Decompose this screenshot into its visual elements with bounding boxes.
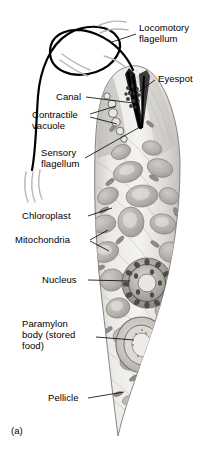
nucleus [122,258,172,309]
label-nucleus: Nucleus [42,275,77,286]
euglena-diagram [0,0,210,457]
label-canal: Canal [56,92,81,103]
label-mitochondria: Mitochondria [15,235,70,246]
label-paramylon-body: Paramylon body (stored food) [22,319,75,351]
label-eyespot: Eyespot [158,74,193,85]
label-locomotory-flagellum: Locomotory flagellum [139,23,189,45]
label-sensory-flagellum: Sensory flagellum [41,148,79,170]
cell-body [90,66,184,436]
panel-label: (a) [11,425,23,436]
label-contractile-vacuole: Contractile vacuole [32,110,78,132]
label-pellicle: Pellicle [48,393,79,404]
label-chloroplast: Chloroplast [22,211,71,222]
figure-panel: Locomotory flagellum Eyespot Canal Contr… [0,0,210,457]
